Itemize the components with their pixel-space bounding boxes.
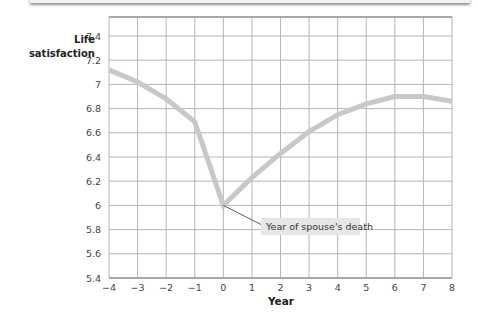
x-tick-label: 3: [306, 282, 312, 293]
x-axis-label: Year: [267, 295, 295, 307]
x-tick-label: 0: [220, 282, 226, 293]
y-tick-label: 5.8: [86, 224, 101, 235]
y-tick-label: 6.6: [86, 127, 101, 138]
y-tick-label: 5.4: [86, 273, 101, 284]
y-tick-label: 7: [95, 79, 101, 90]
x-tick-label: −3: [131, 282, 145, 293]
y-axis-label-line1: Life: [74, 34, 95, 45]
grid: [109, 17, 452, 278]
x-tick-label: −1: [188, 282, 202, 293]
x-tick-label: 2: [277, 282, 283, 293]
x-tick-label: −4: [102, 282, 116, 293]
life-satisfaction-chart: 5.45.65.866.26.46.66.877.27.4 −4−3−2−101…: [0, 0, 478, 317]
x-tick-label: 8: [449, 282, 455, 293]
x-tick-label: 6: [392, 282, 398, 293]
y-tick-label: 6.2: [86, 176, 101, 187]
y-tick-label: 6.4: [86, 152, 101, 163]
x-tick-label: 4: [335, 282, 341, 293]
annotation-leader-line: [223, 205, 262, 225]
x-axis-ticks: −4−3−2−1012345678: [102, 282, 455, 293]
y-axis-ticks: 5.45.65.866.26.46.66.877.27.4: [86, 31, 101, 284]
y-tick-label: 5.6: [86, 248, 101, 259]
x-tick-label: −2: [159, 282, 173, 293]
annotation-label: Year of spouse's death: [265, 221, 373, 232]
y-tick-label: 6.8: [86, 103, 101, 114]
x-tick-label: 5: [363, 282, 369, 293]
x-tick-label: 7: [420, 282, 426, 293]
y-axis-label-line2: satisfaction: [29, 48, 95, 59]
x-tick-label: 1: [249, 282, 255, 293]
y-tick-label: 6: [95, 200, 101, 211]
